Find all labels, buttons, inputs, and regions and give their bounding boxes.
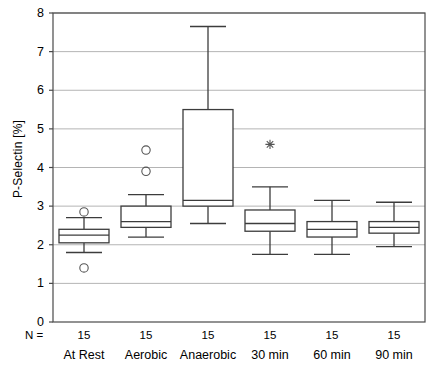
n-value-5: 15 [364, 330, 424, 342]
boxplot-figure: P-Selectin [%] N = 01234567815At Rest15A… [0, 0, 438, 369]
n-value-4: 15 [302, 330, 362, 342]
box-0 [59, 229, 109, 243]
y-tick-label-7: 7 [22, 46, 44, 59]
y-tick-label-1: 1 [22, 277, 44, 290]
box-1 [121, 206, 171, 227]
n-value-3: 15 [240, 330, 300, 342]
plot-canvas [0, 0, 438, 369]
n-value-1: 15 [116, 330, 176, 342]
outlier-1-1 [142, 167, 150, 175]
y-tick-label-6: 6 [22, 84, 44, 97]
outlier-0-1 [80, 264, 88, 272]
box-2 [183, 110, 233, 207]
outlier-0-0 [80, 208, 88, 216]
extreme-outlier-3-0 [265, 140, 274, 149]
y-tick-label-4: 4 [22, 162, 44, 175]
y-tick-label-5: 5 [22, 123, 44, 136]
y-tick-label-8: 8 [22, 7, 44, 20]
box-3 [245, 210, 295, 231]
y-tick-label-0: 0 [22, 316, 44, 329]
n-row-label: N = [25, 330, 43, 342]
y-tick-label-3: 3 [22, 200, 44, 213]
category-label-5: 90 min [354, 349, 434, 362]
y-tick-label-2: 2 [22, 239, 44, 252]
n-value-2: 15 [178, 330, 238, 342]
n-value-0: 15 [54, 330, 114, 342]
outlier-1-0 [142, 146, 150, 154]
